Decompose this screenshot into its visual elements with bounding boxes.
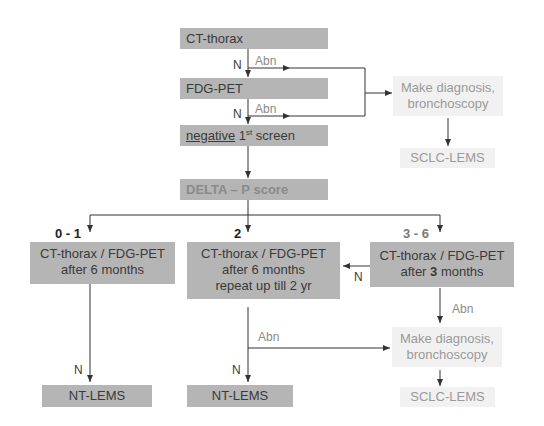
n-label-3-6: N: [354, 270, 363, 284]
sclc-lems-bottom-box: SCLC-LEMS: [400, 387, 495, 407]
nt-lems-mid-box: NT-LEMS: [187, 385, 293, 407]
fdg-pet-label: FDG-PET: [186, 81, 243, 96]
diagnosis-top-box: Make diagnosis, bronchoscopy: [393, 76, 503, 116]
negative-screen-box: negative 1st screen: [180, 125, 328, 146]
branch-3-6-box: CT-thorax / FDG-PET after 3 months: [370, 242, 514, 287]
score-0-1: 0 - 1: [55, 226, 81, 241]
branch-2-box: CT-thorax / FDG-PET after 6 months repea…: [187, 242, 340, 299]
abn-label-3-6: Abn: [452, 302, 473, 316]
n-label-left: N: [74, 363, 83, 377]
delta-p-score-label: DELTA – P score: [186, 182, 288, 197]
nt-lems-left-box: NT-LEMS: [42, 385, 152, 407]
fdg-pet-box: FDG-PET: [180, 78, 328, 99]
negative-label: negative: [186, 128, 235, 143]
delta-p-score-box: DELTA – P score: [180, 179, 328, 200]
n-label-mid: N: [232, 363, 241, 377]
ct-thorax-box: CT-thorax: [180, 28, 328, 49]
score-2: 2: [234, 226, 241, 241]
branch-0-1-box: CT-thorax / FDG-PET after 6 months: [30, 242, 175, 284]
n-label-1: N: [233, 58, 242, 72]
ct-thorax-label: CT-thorax: [186, 31, 243, 46]
abn-label-1: Abn: [255, 54, 276, 68]
diagnosis-bottom-box: Make diagnosis, bronchoscopy: [392, 327, 502, 367]
sclc-lems-top-box: SCLC-LEMS: [400, 148, 495, 168]
abn-label-2: Abn: [255, 102, 276, 116]
n-label-2: N: [233, 107, 242, 121]
score-3-6: 3 - 6: [403, 226, 429, 241]
abn-label-mid: Abn: [258, 330, 279, 344]
